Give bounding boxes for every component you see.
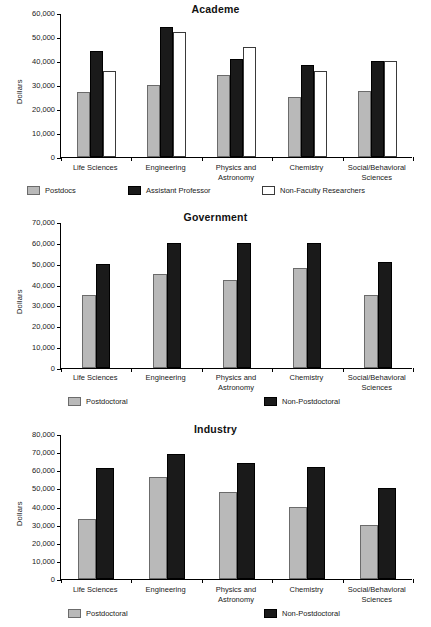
y-axis-tick-label: 50,000: [32, 486, 55, 494]
x-axis-tick: [61, 579, 62, 583]
y-axis-tick-label: 20,000: [32, 540, 55, 548]
chart-panel-government: GovernmentDollars010,00020,00030,00040,0…: [0, 207, 431, 418]
y-axis-label: Dollars: [15, 79, 24, 104]
bar: [173, 32, 186, 157]
y-axis-tick-label: 50,000: [32, 34, 55, 42]
legend-item[interactable]: Postdocs: [27, 186, 76, 195]
plot-area: 010,00020,00030,00040,00050,00060,00070,…: [60, 223, 412, 369]
x-axis-category-label: Physics and Astronomy: [201, 585, 271, 604]
x-axis-tick: [272, 157, 273, 161]
x-axis-category-label: Engineering: [130, 585, 200, 595]
x-axis-category-label: Life Sciences: [60, 163, 130, 173]
bar: [90, 51, 103, 157]
y-axis-tick-label: 60,000: [32, 10, 55, 18]
bar: [237, 243, 251, 368]
bar: [237, 463, 255, 579]
x-axis-category-label: Social/Behavioral Sciences: [342, 585, 412, 604]
y-axis-tick-label: 70,000: [32, 449, 55, 457]
bar: [364, 295, 378, 368]
legend-swatch-icon: [68, 609, 81, 618]
bar: [384, 61, 397, 157]
bar: [78, 519, 96, 579]
bar-group: [131, 223, 201, 368]
bar: [360, 525, 378, 579]
bar: [243, 47, 256, 157]
y-axis-tick-label: 30,000: [32, 303, 55, 311]
x-axis-category-label: Life Sciences: [60, 373, 130, 383]
figure-container: AcademeDollars010,00020,00030,00040,0005…: [0, 0, 431, 627]
legend-item[interactable]: Assistant Professor: [128, 186, 211, 195]
x-axis-tick: [343, 368, 344, 372]
bar: [153, 274, 167, 368]
bar: [289, 507, 307, 580]
x-axis-category-label: Chemistry: [271, 373, 341, 383]
legend-label: Non-Postdoctoral: [282, 609, 340, 618]
bar-group: [343, 223, 413, 368]
y-axis-tick-label: 10,000: [32, 558, 55, 566]
bar: [371, 61, 384, 157]
x-axis-tick: [61, 157, 62, 161]
bar: [378, 262, 392, 368]
x-axis-category-label: Life Sciences: [60, 585, 130, 595]
bar: [160, 27, 173, 157]
y-axis-tick-label: 40,000: [32, 58, 55, 66]
y-axis-tick-label: 50,000: [32, 261, 55, 269]
x-axis-category-label: Physics and Astronomy: [201, 163, 271, 182]
y-axis-tick-label: 70,000: [32, 219, 55, 227]
y-axis-label: Dollars: [15, 289, 24, 314]
x-axis-category-label: Engineering: [130, 373, 200, 383]
y-axis-label: Dollars: [15, 501, 24, 526]
x-axis-category-label: Chemistry: [271, 585, 341, 595]
legend-item[interactable]: Postdoctoral: [68, 397, 128, 406]
bar: [288, 97, 301, 157]
bar: [219, 492, 237, 579]
x-axis-category-label: Social/Behavioral Sciences: [342, 163, 412, 182]
x-axis-tick: [413, 368, 414, 372]
legend-item[interactable]: Non-Faculty Researchers: [262, 186, 365, 195]
legend-item[interactable]: Postdoctoral: [68, 609, 128, 618]
bar: [293, 268, 307, 368]
y-axis-tick-label: 40,000: [32, 282, 55, 290]
legend-label: Postdoctoral: [86, 397, 128, 406]
bar-group: [131, 14, 201, 157]
x-axis-tick: [343, 579, 344, 583]
bar: [103, 71, 116, 157]
bar-group: [131, 435, 201, 579]
bar: [96, 468, 114, 579]
x-axis-tick: [131, 368, 132, 372]
bar-group: [61, 223, 131, 368]
bar: [77, 92, 90, 157]
bar: [307, 243, 321, 368]
legend-item[interactable]: Non-Postdoctoral: [264, 609, 340, 618]
legend-label: Postdocs: [45, 186, 76, 195]
y-axis-tick-label: 40,000: [32, 504, 55, 512]
bar: [82, 295, 96, 368]
x-axis-tick: [413, 157, 414, 161]
y-axis-tick-label: 30,000: [32, 82, 55, 90]
legend-item[interactable]: Non-Postdoctoral: [264, 397, 340, 406]
bar: [167, 243, 181, 368]
y-axis-tick-label: 20,000: [32, 106, 55, 114]
x-axis-category-label: Chemistry: [271, 163, 341, 173]
legend-swatch-icon: [264, 609, 277, 618]
x-axis-category-label: Social/Behavioral Sciences: [342, 373, 412, 392]
bar: [149, 477, 167, 579]
y-axis-tick-label: 0: [51, 365, 55, 373]
x-axis-tick: [272, 579, 273, 583]
legend-label: Non-Faculty Researchers: [280, 186, 365, 195]
chart-title: Government: [0, 211, 431, 223]
y-axis-tick-label: 20,000: [32, 324, 55, 332]
bar: [358, 91, 371, 157]
legend-swatch-icon: [262, 186, 275, 195]
x-axis-category-label: Engineering: [130, 163, 200, 173]
bar: [230, 59, 243, 157]
legend-swatch-icon: [128, 186, 141, 195]
x-axis-tick: [343, 157, 344, 161]
bar: [301, 65, 314, 157]
bar-group: [272, 14, 342, 157]
bar-group: [272, 223, 342, 368]
bar-group: [202, 14, 272, 157]
legend-label: Postdoctoral: [86, 609, 128, 618]
bar: [307, 467, 325, 579]
legend-label: Assistant Professor: [146, 186, 211, 195]
